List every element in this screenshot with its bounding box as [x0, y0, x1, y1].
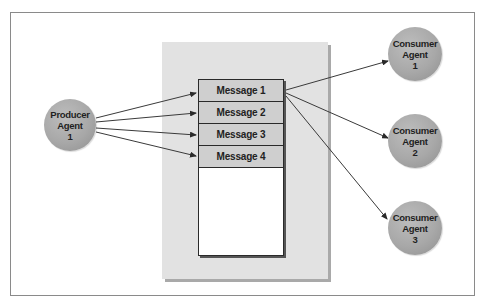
consumer-agent-label: Consumer Agent 2	[393, 125, 438, 158]
message-label: Message 2	[217, 107, 266, 118]
queue-empty-slot	[199, 168, 283, 255]
consumer-agent-3-node: Consumer Agent 3	[388, 201, 442, 255]
message-label: Message 3	[217, 129, 266, 140]
queue-message-3: Message 3	[199, 124, 283, 146]
message-label: Message 1	[217, 85, 266, 96]
consumer-agent-label: Consumer Agent 3	[393, 212, 438, 245]
producer-agent-label: Producer Agent 1	[50, 109, 89, 142]
queue-message-4: Message 4	[199, 146, 283, 168]
queue-message-2: Message 2	[199, 102, 283, 124]
queue-message-1: Message 1	[199, 80, 283, 102]
message-queue: Message 1 Message 2 Message 3 Message 4	[198, 79, 284, 256]
consumer-agent-1-node: Consumer Agent 1	[388, 27, 442, 81]
producer-agent-node: Producer Agent 1	[44, 99, 96, 151]
consumer-agent-label: Consumer Agent 1	[393, 38, 438, 71]
message-label: Message 4	[217, 151, 266, 162]
consumer-agent-2-node: Consumer Agent 2	[388, 114, 442, 168]
